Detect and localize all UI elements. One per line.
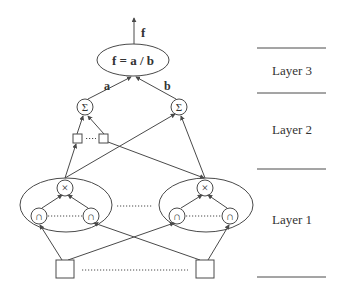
membership-icon: ∩ xyxy=(173,210,181,222)
membership-icon: ∩ xyxy=(226,210,234,222)
layer-2-label: Layer 2 xyxy=(272,122,312,137)
edge xyxy=(68,195,88,208)
input-node-left xyxy=(56,260,74,278)
weight-node xyxy=(73,134,82,143)
edge xyxy=(77,116,83,134)
edge xyxy=(208,225,229,260)
edge-label-b: b xyxy=(164,79,171,93)
input-node-right xyxy=(196,260,214,278)
product-icon: × xyxy=(62,181,69,195)
division-node-label: f = a / b xyxy=(112,53,154,68)
layer-1-label: Layer 1 xyxy=(272,212,312,227)
edge-label-a: a xyxy=(104,79,110,93)
weight-node xyxy=(99,134,108,143)
edge xyxy=(68,223,174,260)
layer-3-label: Layer 3 xyxy=(272,63,312,78)
edge xyxy=(108,142,204,178)
layer-separators xyxy=(257,48,326,277)
edge xyxy=(181,116,205,178)
sum-icon: Σ xyxy=(176,101,182,113)
membership-icon: ∩ xyxy=(87,210,95,222)
edge xyxy=(181,195,202,208)
product-icon: × xyxy=(202,181,209,195)
edge xyxy=(88,116,104,134)
edge xyxy=(208,195,227,208)
edge xyxy=(42,195,62,208)
membership-icon: ∩ xyxy=(35,210,43,222)
output-label: f xyxy=(141,25,146,40)
sum-icon: Σ xyxy=(82,101,88,113)
network-diagram: Layer 3 Layer 2 Layer 1 f f = a / b a b … xyxy=(0,0,343,297)
